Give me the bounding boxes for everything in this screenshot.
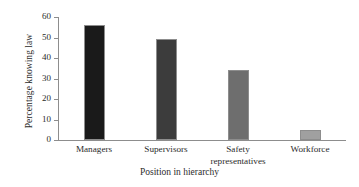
y-tick-label-40: 40 [42, 51, 51, 64]
x-axis-line [58, 140, 346, 141]
x-category-label-3: Workforce [274, 144, 346, 156]
y-tick-60: 60 [54, 17, 58, 18]
bar-managers [84, 25, 105, 140]
y-tick-30: 30 [54, 79, 58, 80]
y-tick-0: 0 [54, 140, 58, 141]
y-axis-title: Percentage knowing law [22, 16, 36, 146]
y-tick-10: 10 [54, 120, 58, 121]
y-tick-label-30: 30 [42, 72, 51, 85]
y-tick-label-50: 50 [42, 31, 51, 44]
bar-workforce [300, 130, 321, 140]
y-tick-20: 20 [54, 99, 58, 100]
x-category-label-1: Supervisors [130, 144, 202, 156]
bar-supervisors [156, 39, 177, 140]
plot-area: 0102030405060 ManagersSupervisorsSafety … [58, 17, 346, 141]
y-tick-label-60: 60 [42, 10, 51, 23]
bar-safety-representatives [228, 70, 249, 140]
y-tick-50: 50 [54, 38, 58, 39]
y-tick-label-20: 20 [42, 92, 51, 105]
x-axis-title: Position in hierarchy [0, 166, 359, 179]
y-tick-label-10: 10 [42, 113, 51, 126]
y-axis-line [58, 17, 59, 141]
x-category-label-2: Safety representatives [202, 144, 274, 167]
bar-chart-figure: Percentage knowing law 0102030405060 Man… [0, 0, 359, 187]
y-tick-40: 40 [54, 58, 58, 59]
x-category-label-0: Managers [58, 144, 130, 156]
y-tick-label-0: 0 [47, 133, 52, 146]
